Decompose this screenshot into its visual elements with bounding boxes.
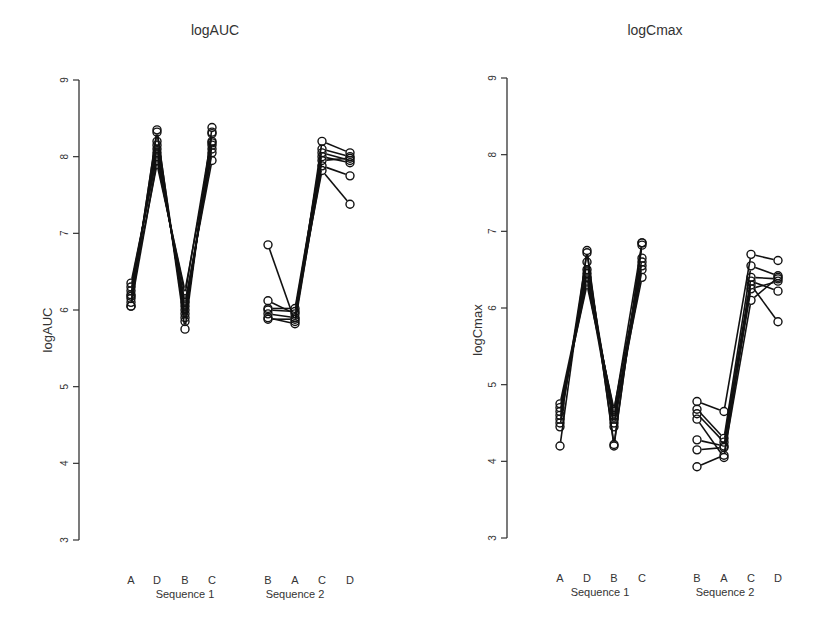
profile-segment — [186, 165, 211, 298]
x-category-label: B — [693, 572, 700, 584]
profile-segment — [700, 413, 721, 436]
x-category-label: C — [638, 572, 646, 584]
profile-segment — [272, 314, 290, 317]
x-category-label: D — [346, 574, 354, 586]
profile-segment — [725, 270, 751, 434]
data-point-marker — [583, 258, 591, 266]
x-category-label: A — [556, 572, 564, 584]
subject-profile — [556, 254, 646, 427]
subject-profile — [693, 262, 782, 443]
subject-profile — [264, 166, 354, 315]
profile-segment — [701, 403, 720, 410]
x-category-label: A — [720, 572, 728, 584]
profile-segment — [725, 305, 750, 451]
chart-canvas: logAUC3456789logAUCADBCSequence 1BACDSeq… — [0, 0, 820, 628]
x-category-label: C — [747, 572, 755, 584]
y-tick-label: 7 — [59, 230, 70, 236]
y-tick-label: 6 — [487, 305, 498, 311]
data-point-marker — [774, 318, 782, 326]
x-category-label: D — [153, 574, 161, 586]
x-category-label: D — [583, 572, 591, 584]
y-tick-label: 6 — [59, 307, 70, 313]
profile-segment — [701, 457, 720, 465]
profile-segment — [615, 266, 641, 404]
y-tick-label: 4 — [487, 458, 498, 464]
data-point-marker — [693, 398, 701, 406]
profile-segment — [325, 174, 347, 201]
data-point-marker — [720, 408, 728, 416]
data-point-marker — [556, 442, 564, 450]
x-category-label: A — [127, 574, 135, 586]
x-category-label: B — [610, 572, 617, 584]
x-category-label: A — [291, 574, 299, 586]
profile-segment — [186, 150, 211, 287]
y-tick-label: 7 — [487, 228, 498, 234]
data-point-marker — [747, 262, 755, 270]
subject-profile — [127, 141, 216, 300]
chart-title: logCmax — [627, 22, 682, 38]
x-category-label: C — [318, 574, 326, 586]
profile-segment — [754, 289, 776, 319]
sequence-group-label: Sequence 2 — [696, 586, 755, 598]
data-point-marker — [264, 241, 272, 249]
profile-segment — [296, 175, 321, 307]
y-tick-label: 5 — [487, 381, 498, 387]
profile-segment — [725, 293, 750, 443]
data-point-marker — [693, 415, 701, 423]
data-point-marker — [693, 446, 701, 454]
profile-segment — [755, 278, 773, 279]
y-tick-label: 9 — [59, 77, 70, 83]
subject-profile — [127, 130, 216, 310]
data-point-marker — [346, 172, 354, 180]
sequence-group-label: Sequence 1 — [156, 588, 215, 600]
y-axis-label: logCmax — [470, 304, 485, 356]
y-tick-label: 9 — [487, 75, 498, 81]
profile-segment — [755, 255, 773, 259]
profile-segment — [561, 282, 586, 400]
y-tick-label: 5 — [59, 383, 70, 389]
x-category-label: D — [774, 572, 782, 584]
subject-profile — [693, 277, 782, 454]
data-point-marker — [747, 250, 755, 258]
data-point-marker — [774, 256, 782, 264]
x-category-label: B — [181, 574, 188, 586]
x-category-label: B — [264, 574, 271, 586]
y-tick-label: 8 — [59, 153, 70, 159]
profile-segment — [272, 310, 290, 311]
subject-profile — [693, 250, 782, 415]
profile-segment — [701, 441, 719, 445]
profile-segment — [132, 169, 156, 292]
chart-title: logAUC — [191, 22, 239, 38]
y-tick-label: 4 — [59, 460, 70, 466]
data-point-marker — [264, 297, 272, 305]
data-point-marker — [693, 463, 701, 471]
data-point-marker — [693, 436, 701, 444]
profile-segment — [755, 267, 774, 274]
data-point-marker — [318, 137, 326, 145]
data-point-marker — [346, 200, 354, 208]
data-point-marker — [774, 287, 782, 295]
profile-segment — [132, 161, 156, 279]
profile-segment — [588, 282, 613, 423]
profile-segment — [326, 143, 346, 151]
profile-segment — [615, 274, 641, 422]
subject-profile — [556, 258, 646, 413]
profile-segment — [326, 167, 346, 174]
y-axis-label: logAUC — [40, 308, 55, 353]
logcmax-panel: logCmax3456789logCmaxADBCSequence 1BACDS… — [470, 22, 782, 598]
y-tick-label: 3 — [59, 537, 70, 543]
y-tick-label: 3 — [487, 535, 498, 541]
logauc-panel: logAUC3456789logAUCADBCSequence 1BACDSeq… — [40, 22, 354, 600]
data-point-marker — [181, 325, 189, 333]
y-tick-label: 8 — [487, 151, 498, 157]
profile-segment — [701, 448, 719, 450]
profile-segment — [561, 289, 586, 403]
sequence-group-label: Sequence 1 — [571, 586, 630, 598]
x-category-label: C — [208, 574, 216, 586]
sequence-group-label: Sequence 2 — [266, 588, 325, 600]
profile-segment — [158, 169, 184, 287]
subject-profile — [556, 270, 646, 420]
